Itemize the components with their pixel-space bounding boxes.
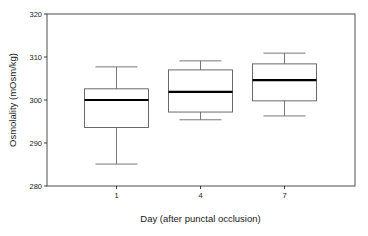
box-day-7	[253, 64, 317, 101]
box-group-day-7	[253, 53, 317, 116]
x-axis-title: Day (after punctal occlusion)	[140, 213, 260, 224]
box-day-1	[85, 89, 149, 128]
x-tick-label-1: 4	[198, 191, 202, 200]
boxplot-figure: 320 310 300 290 280 Osmolality (mOsm/kg)…	[0, 0, 368, 236]
x-tick-label-2: 7	[282, 191, 286, 200]
box-group-day-1	[85, 67, 149, 164]
y-axis-title: Osmolality (mOsm/kg)	[7, 53, 18, 147]
y-tick-label-4: 320	[29, 10, 42, 19]
y-tick-label-0: 280	[29, 182, 42, 191]
y-tick-label-2: 300	[29, 96, 42, 105]
box-group-day-4	[169, 61, 233, 120]
y-tick-label-1: 290	[29, 139, 42, 148]
x-tick-label-0: 1	[114, 191, 118, 200]
y-tick-label-3: 310	[29, 53, 42, 62]
chart-canvas: 320 310 300 290 280 Osmolality (mOsm/kg)…	[0, 0, 368, 236]
